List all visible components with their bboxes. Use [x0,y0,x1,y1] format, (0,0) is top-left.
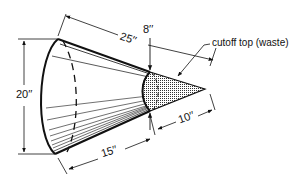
label-cutoff-top-waste: cutoff top (waste) [212,38,289,48]
cutoff-top-waste [143,72,206,111]
frustum-body [41,39,150,154]
cone-diagram: 25′′ 8′′ cutoff top (waste) 20′′ 15′′ 10… [0,0,306,179]
dim-25-line [58,14,216,66]
label-20: 20′′ [16,89,32,100]
waste-leader [178,44,210,76]
label-8: 8′′ [143,24,153,35]
